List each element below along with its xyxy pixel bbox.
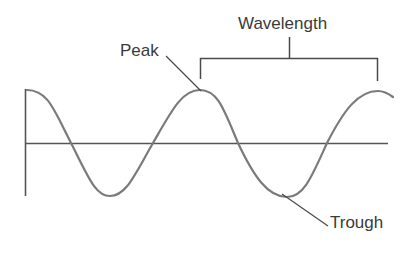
trough-leader-line bbox=[282, 194, 328, 226]
wavelength-label: Wavelength bbox=[238, 15, 327, 33]
peak-label: Peak bbox=[120, 42, 159, 60]
wave-diagram: Wavelength Peak Trough bbox=[0, 0, 408, 261]
peak-leader-line bbox=[166, 56, 201, 91]
trough-label: Trough bbox=[330, 214, 383, 232]
